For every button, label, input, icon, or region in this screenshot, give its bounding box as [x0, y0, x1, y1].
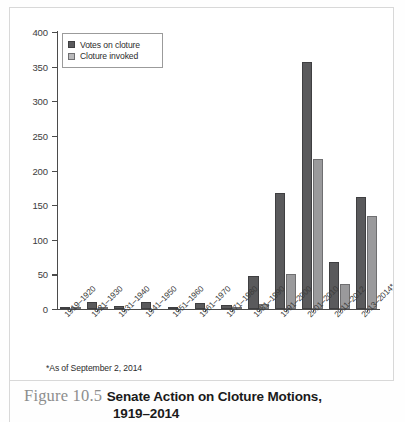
x-tick-11 [367, 309, 368, 312]
x-tick-4 [178, 309, 179, 312]
caption-left-rule [9, 381, 10, 422]
x-tick-9 [313, 309, 314, 312]
figure-caption: Figure 10.5 Senate Action on Cloture Mot… [24, 386, 394, 406]
x-tick-3 [151, 309, 152, 312]
x-tick-10 [340, 309, 341, 312]
x-tick-8 [286, 309, 287, 312]
legend-swatch-cloture-invoked [68, 53, 75, 60]
x-tick-7 [259, 309, 260, 312]
x-tick-1 [97, 309, 98, 312]
bar-2001-2010-s0 [302, 62, 312, 309]
x-tick-2 [124, 309, 125, 312]
legend-item-cloture-invoked: Cloture invoked [68, 51, 156, 61]
figure-title-line2: 1919–2014 [113, 406, 179, 421]
figure-number: Figure 10.5 [24, 386, 102, 405]
chart-plot-area: 050100150200250300350400 1919–19201921–1… [0, 0, 405, 375]
x-tick-5 [205, 309, 206, 312]
figure-title-line1: Senate Action on Cloture Motions, [107, 389, 322, 404]
bars-layer [0, 0, 405, 375]
legend-label-votes-on-cloture: Votes on cloture [80, 40, 140, 50]
legend-item-votes-on-cloture: Votes on cloture [68, 40, 156, 50]
figure-page: 050100150200250300350400 1919–19201921–1… [0, 0, 405, 422]
x-tick-6 [232, 309, 233, 312]
bar-2001-2010-s1 [313, 159, 323, 309]
chart-legend: Votes on cloture Cloture invoked [62, 33, 163, 68]
x-tick-0 [70, 309, 71, 312]
legend-swatch-votes-on-cloture [68, 41, 75, 48]
legend-label-cloture-invoked: Cloture invoked [80, 51, 138, 61]
chart-footnote: *As of September 2, 2014 [46, 363, 142, 373]
